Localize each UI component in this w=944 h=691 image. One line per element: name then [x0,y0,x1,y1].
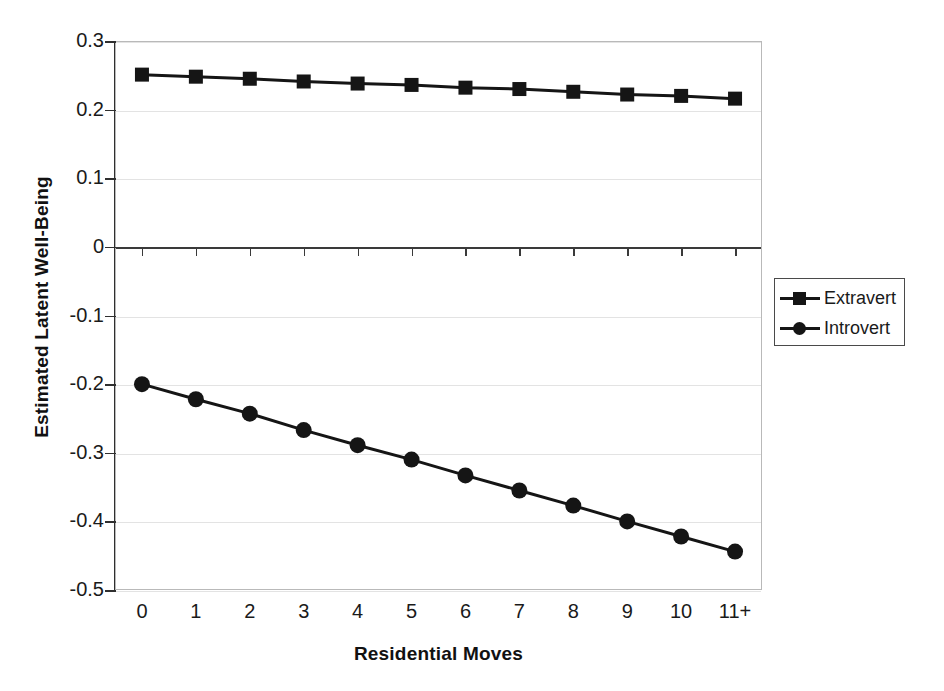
legend-item-extravert[interactable]: Extravert [775,283,904,313]
circle-marker-icon [780,318,820,338]
x-axis-tick [304,247,306,256]
square-marker-icon [780,288,820,308]
data-point-extravert [189,70,203,84]
data-point-introvert [511,482,527,498]
y-axis-tick [105,521,116,523]
y-axis-tick [105,178,116,180]
x-axis-tick [465,247,467,256]
data-point-introvert [404,452,420,468]
x-axis-tick-label: 1 [166,600,226,623]
y-axis-tick [105,247,116,249]
x-axis-tick [519,247,521,256]
data-point-introvert [188,391,204,407]
x-axis-tick-label: 10 [651,600,711,623]
y-axis-tick-label: -0.3 [46,442,104,462]
y-axis-tick [105,110,116,112]
x-axis-tick [627,247,629,256]
x-axis-tick-label: 7 [489,600,549,623]
x-axis-tick-label: 2 [220,600,280,623]
series-line-introvert [142,384,735,551]
chart-legend: ExtravertIntrovert [774,278,905,346]
data-point-extravert [620,88,634,102]
legend-label: Extravert [820,288,896,309]
series-layer [115,41,762,590]
x-axis-tick-label: 5 [382,600,442,623]
legend-item-introvert[interactable]: Introvert [775,313,904,343]
data-point-extravert [728,92,742,106]
y-axis-tick-label: -0.2 [46,373,104,393]
y-axis-tick-label: 0.1 [46,167,104,187]
data-point-introvert [242,406,258,422]
y-axis-tick-label: 0.3 [46,30,104,50]
x-axis-tick [735,247,737,256]
y-axis-tick-label: -0.1 [46,305,104,325]
data-point-extravert [351,77,365,91]
y-axis-tick [105,41,116,43]
y-axis-tick-labels: 0.30.20.10-0.1-0.2-0.3-0.4-0.5 [46,0,104,691]
data-point-extravert [458,81,472,95]
data-point-introvert [619,513,635,529]
data-point-extravert [135,68,149,82]
data-point-extravert [297,74,311,88]
y-axis-tick-label: -0.5 [46,579,104,599]
data-point-extravert [405,78,419,92]
data-point-introvert [350,437,366,453]
x-axis-tick [681,247,683,256]
data-point-introvert [727,544,743,560]
x-axis-tick [412,247,414,256]
y-axis-tick-label: -0.4 [46,510,104,530]
y-axis-tick [105,453,116,455]
x-axis-tick [573,247,575,256]
data-point-introvert [134,376,150,392]
data-point-extravert [566,85,580,99]
y-axis-tick [105,384,116,386]
data-point-introvert [296,422,312,438]
data-point-extravert [243,72,257,86]
data-point-extravert [512,82,526,96]
legend-label: Introvert [820,318,890,339]
data-point-introvert [673,528,689,544]
y-axis-tick-label: 0.2 [46,99,104,119]
x-axis-tick [358,247,360,256]
series-line-extravert [142,75,735,99]
data-point-extravert [674,89,688,103]
x-axis-tick-label: 11+ [705,600,765,623]
x-axis-tick-label: 6 [435,600,495,623]
x-axis-tick-label: 9 [597,600,657,623]
x-axis-tick-label: 4 [328,600,388,623]
x-axis-tick [196,247,198,256]
x-axis-title: Residential Moves [115,643,762,665]
data-point-introvert [457,467,473,483]
x-axis-tick [142,247,144,256]
y-axis-tick [105,316,116,318]
gridline [116,591,761,592]
y-axis-tick [105,590,116,592]
x-axis-tick-label: 0 [112,600,172,623]
chart-figure: Estimated Latent Well-Being 0.30.20.10-0… [0,0,944,691]
x-axis-tick [250,247,252,256]
x-axis-tick-label: 3 [274,600,334,623]
x-axis-tick-label: 8 [543,600,603,623]
y-axis-tick-label: 0 [46,236,104,256]
data-point-introvert [565,498,581,514]
